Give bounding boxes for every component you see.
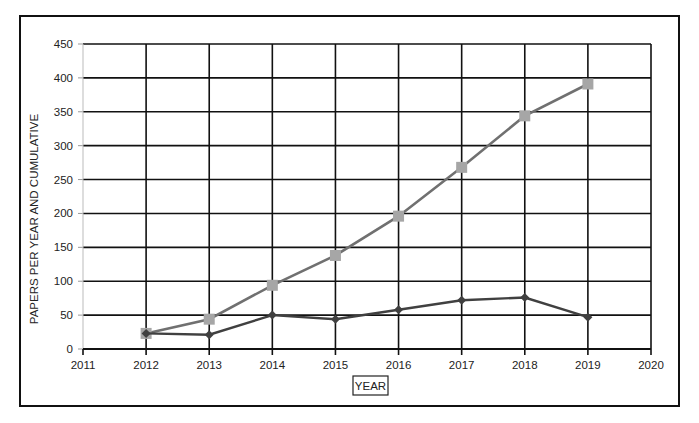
y-tick-label: 100 xyxy=(54,275,73,287)
square-marker xyxy=(204,314,215,325)
y-tick-label: 200 xyxy=(54,207,73,219)
chart-frame xyxy=(20,16,679,406)
y-tick-label: 0 xyxy=(67,343,73,355)
x-tick-label: 2012 xyxy=(133,359,159,371)
x-tick-label: 2020 xyxy=(638,359,664,371)
square-marker xyxy=(330,250,341,261)
x-tick-label: 2013 xyxy=(196,359,222,371)
square-marker xyxy=(456,162,467,173)
x-tick-label: 2011 xyxy=(71,359,96,371)
x-tick-label: 2019 xyxy=(575,359,601,371)
y-tick-label: 150 xyxy=(54,241,73,253)
square-marker xyxy=(267,280,278,291)
y-tick-label: 350 xyxy=(54,106,73,118)
x-tick-label: 2014 xyxy=(260,359,286,371)
x-axis-label: YEAR xyxy=(355,380,386,392)
square-marker xyxy=(393,211,404,222)
y-tick-label: 250 xyxy=(54,174,73,186)
square-marker xyxy=(582,78,593,89)
x-tick-label: 2018 xyxy=(512,359,538,371)
y-tick-label: 50 xyxy=(60,309,73,321)
y-tick-label: 400 xyxy=(54,72,73,84)
square-marker xyxy=(519,110,530,121)
x-tick-label: 2016 xyxy=(386,359,412,371)
x-tick-label: 2017 xyxy=(449,359,475,371)
x-tick-label: 2015 xyxy=(323,359,349,371)
y-tick-label: 300 xyxy=(54,140,73,152)
chart-container: 050100150200250300350400450 201120122013… xyxy=(0,0,699,423)
line-chart: 050100150200250300350400450 201120122013… xyxy=(0,0,699,423)
y-axis-label: PAPERS PER YEAR AND CUMULATIVE xyxy=(28,114,40,325)
y-tick-label: 450 xyxy=(54,38,73,50)
